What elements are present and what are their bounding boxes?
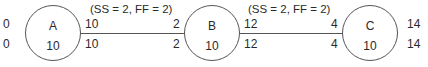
node-b-duration: 10 xyxy=(185,39,239,53)
node-a-early-start: 0 xyxy=(3,18,10,31)
node-a: A 10 xyxy=(25,5,81,61)
node-c-late-finish: 14 xyxy=(407,38,420,51)
node-c-name: C xyxy=(343,19,397,33)
node-c-late-start: 4 xyxy=(331,38,338,51)
node-a-duration: 10 xyxy=(26,39,80,53)
link-b-c-label: (SS = 2, FF = 2) xyxy=(248,3,330,16)
node-b-late-finish: 12 xyxy=(244,38,257,51)
node-a-name: A xyxy=(26,19,80,33)
node-a-late-finish: 10 xyxy=(85,38,98,51)
node-a-early-finish: 10 xyxy=(85,18,98,31)
node-b-name: B xyxy=(185,19,239,33)
node-c-early-finish: 14 xyxy=(407,18,420,31)
node-c-duration: 10 xyxy=(343,39,397,53)
link-a-b xyxy=(81,33,185,34)
node-a-late-start: 0 xyxy=(3,38,10,51)
node-b-early-start: 2 xyxy=(173,18,180,31)
node-c: C 10 xyxy=(342,5,398,61)
link-b-c xyxy=(239,33,343,34)
node-c-early-start: 4 xyxy=(331,18,338,31)
link-a-b-label: (SS = 2, FF = 2) xyxy=(90,3,172,16)
node-b: B 10 xyxy=(184,5,240,61)
node-b-early-finish: 12 xyxy=(244,18,257,31)
node-b-late-start: 2 xyxy=(173,38,180,51)
